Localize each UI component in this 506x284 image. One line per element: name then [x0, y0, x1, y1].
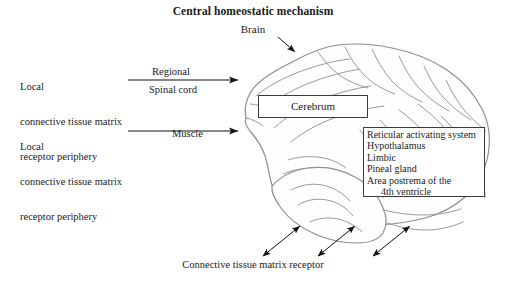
structure-item-4: Pineal gland — [367, 163, 484, 174]
structure-item-5: Area postrema of the — [367, 175, 484, 186]
input-label-1-line1: Local — [20, 81, 122, 93]
route-label-regional: Regional — [152, 66, 190, 77]
structure-item-3: Limbic — [367, 152, 484, 163]
structure-item-1: Reticular activating system — [367, 129, 484, 140]
diagram-title: Central homeostatic mechanism — [0, 6, 506, 18]
input-label-2-line1: Local — [20, 141, 122, 153]
brain-pointer-label: Brain — [0, 24, 506, 36]
cerebrum-label: Cerebrum — [259, 96, 367, 117]
arrow-receptor-3 — [373, 226, 410, 256]
input-label-2-line2: connective tissue matrix — [20, 176, 122, 188]
structure-item-5-continuation: 4th ventricle — [367, 186, 484, 197]
route-label-muscle: Muscle — [172, 128, 203, 139]
input-label-2: Local connective tissue matrix receptor … — [20, 118, 122, 246]
structure-item-2: Hypothalamus — [367, 140, 484, 151]
arrow-brain-pointer — [278, 37, 295, 52]
arrow-receptor-2 — [318, 226, 355, 256]
arrow-receptor-1 — [263, 226, 300, 256]
route-label-spinal-cord: Spinal cord — [149, 84, 197, 95]
cerebrum-label-box: Cerebrum — [258, 95, 368, 118]
input-label-2-line3: receptor periphery — [20, 211, 122, 223]
brain-structures-box: Reticular activating system Hypothalamus… — [363, 127, 485, 197]
bottom-caption: Connective tissue matrix receptor — [0, 259, 506, 271]
diagram-canvas: Central homeostatic mechanism Brain Loca… — [0, 0, 506, 284]
